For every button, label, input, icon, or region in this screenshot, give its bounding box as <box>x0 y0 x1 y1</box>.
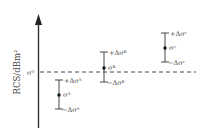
y-axis-label: RCS/dBm² <box>12 50 22 95</box>
error-bar-a: +Δσᴬ σᴬ −Δσᴬ <box>55 77 82 114</box>
error-bar-b: +Δσᴮ σᴮ −Δσᴮ <box>100 49 127 87</box>
reference-label: σ⁰ <box>27 69 34 77</box>
rcs-diagram: RCS/dBm² σ⁰ +Δσᴬ σᴬ −Δσᴬ +Δσᴮ σᴮ −Δσᴮ +Δ… <box>0 0 207 136</box>
center-label-b: σᴮ <box>108 64 115 72</box>
y-axis-arrowhead-icon <box>35 14 42 25</box>
center-label-c: σᶜ <box>169 44 176 52</box>
center-label-a: σᴬ <box>63 91 70 99</box>
plus-delta-label-c: +Δσᶜ <box>170 30 188 38</box>
minus-delta-label-b: −Δσᴮ <box>107 79 125 87</box>
minus-delta-label-c: −Δσᶜ <box>168 59 186 67</box>
data-point-c <box>163 46 166 49</box>
minus-delta-label-a: −Δσᴬ <box>62 106 80 114</box>
data-point-a <box>57 93 60 96</box>
error-bar-c: +Δσᶜ σᶜ −Δσᶜ <box>161 30 188 67</box>
plus-delta-label-a: +Δσᴬ <box>64 77 82 85</box>
plus-delta-label-b: +Δσᴮ <box>109 49 127 57</box>
data-point-b <box>102 66 105 69</box>
